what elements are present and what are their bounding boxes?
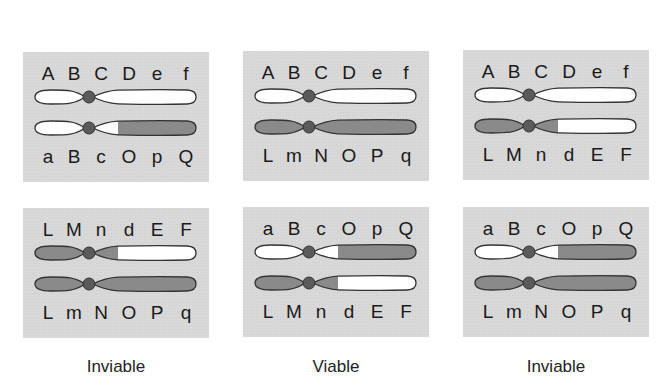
- gene-label: E: [371, 301, 384, 323]
- gene-label: M: [506, 144, 522, 166]
- chromosome-right-arm-distal: [118, 246, 196, 261]
- gene-label: D: [562, 61, 576, 83]
- centromere-icon: [83, 91, 95, 103]
- top-gene-labels: aBcOpQ: [463, 218, 649, 240]
- gene-label: M: [286, 301, 302, 323]
- gene-label: O: [342, 218, 357, 240]
- gene-label: a: [483, 218, 494, 240]
- gene-label: P: [591, 301, 604, 323]
- genotype-panel-1: ABCDefaBcOpQ: [23, 52, 209, 182]
- gene-label: F: [180, 219, 192, 241]
- chromosome-left-arm: [475, 119, 525, 133]
- gene-label: B: [68, 146, 81, 168]
- gene-label: p: [592, 218, 603, 240]
- chromosome-left-arm: [35, 121, 85, 135]
- bottom-gene-labels: LmNOPq: [243, 145, 429, 167]
- centromere-icon: [83, 278, 95, 290]
- top-gene-labels: ABCDef: [23, 63, 209, 85]
- gene-label: L: [263, 301, 274, 323]
- gene-label: N: [314, 145, 328, 167]
- gene-label: O: [122, 146, 137, 168]
- bottom-gene-labels: LMndEF: [463, 144, 649, 166]
- gene-label: m: [66, 302, 82, 324]
- gene-label: Q: [399, 218, 414, 240]
- gene-label: e: [592, 61, 603, 83]
- gene-label: B: [68, 63, 81, 85]
- chromosome-2: [243, 117, 429, 137]
- gene-label: O: [122, 302, 137, 324]
- gene-label: d: [344, 301, 355, 323]
- gene-label: p: [372, 218, 383, 240]
- gene-label: B: [288, 62, 301, 84]
- gene-label: E: [591, 144, 604, 166]
- gene-label: O: [562, 218, 577, 240]
- chromosome-left-arm: [35, 246, 85, 260]
- genotype-panel-5: aBcOpQLMndEF: [243, 207, 429, 337]
- gene-label: P: [371, 145, 384, 167]
- chromosome-1: [463, 85, 649, 105]
- centromere-icon: [523, 89, 535, 101]
- chromosome-right-arm-distal: [338, 89, 416, 104]
- gene-label: c: [96, 146, 106, 168]
- gene-label: d: [564, 144, 575, 166]
- chromosome-right-arm-distal: [118, 121, 196, 136]
- gene-label: N: [534, 301, 548, 323]
- chromosome-2: [243, 273, 429, 293]
- chromosome-left-arm: [475, 88, 525, 102]
- chromosome-right-arm-distal: [118, 90, 196, 105]
- genotype-panel-2: ABCDefLmNOPq: [243, 51, 429, 181]
- bottom-gene-labels: LmNOPq: [463, 301, 649, 323]
- top-gene-labels: ABCDef: [243, 62, 429, 84]
- caption-col-1: Inviable: [23, 357, 209, 377]
- gene-label: A: [262, 62, 275, 84]
- gene-label: q: [181, 302, 192, 324]
- gene-label: f: [623, 61, 628, 83]
- gene-label: L: [483, 144, 494, 166]
- gene-label: C: [534, 61, 548, 83]
- gene-label: D: [122, 63, 136, 85]
- bottom-gene-labels: LmNOPq: [23, 302, 209, 324]
- centromere-icon: [303, 90, 315, 102]
- chromosome-1: [243, 86, 429, 106]
- centromere-icon: [523, 277, 535, 289]
- chromosome-right-arm-distal: [558, 245, 636, 260]
- chromosome-left-arm: [255, 245, 305, 259]
- gene-label: L: [43, 219, 54, 241]
- gene-label: L: [263, 145, 274, 167]
- chromosome-right-arm-distal: [338, 276, 416, 291]
- gene-label: m: [286, 145, 302, 167]
- gene-label: n: [96, 219, 107, 241]
- gene-label: q: [621, 301, 632, 323]
- gene-label: O: [562, 301, 577, 323]
- gene-label: C: [94, 63, 108, 85]
- chromosome-left-arm: [255, 120, 305, 134]
- chromosome-right-arm-distal: [118, 277, 196, 292]
- bottom-gene-labels: aBcOpQ: [23, 146, 209, 168]
- chromosome-left-arm: [475, 276, 525, 290]
- chromosome-1: [23, 87, 209, 107]
- chromosome-right-arm-distal: [558, 88, 636, 103]
- chromosome-left-arm: [255, 89, 305, 103]
- genotype-panel-3: ABCDefLMndEF: [463, 50, 649, 180]
- gene-label: P: [151, 302, 164, 324]
- gene-label: c: [316, 218, 326, 240]
- gene-label: B: [508, 218, 521, 240]
- gene-label: d: [124, 219, 135, 241]
- chromosome-2: [463, 273, 649, 293]
- gene-label: F: [620, 144, 632, 166]
- centromere-icon: [303, 246, 315, 258]
- top-gene-labels: aBcOpQ: [243, 218, 429, 240]
- chromosome-1: [23, 243, 209, 263]
- gene-label: e: [372, 62, 383, 84]
- gene-label: A: [42, 63, 55, 85]
- centromere-icon: [83, 247, 95, 259]
- top-gene-labels: ABCDef: [463, 61, 649, 83]
- chromosome-left-arm: [35, 90, 85, 104]
- genotype-panel-6: aBcOpQLmNOPq: [463, 207, 649, 337]
- gene-label: Q: [619, 218, 634, 240]
- chromosome-left-arm: [35, 277, 85, 291]
- gene-label: M: [66, 219, 82, 241]
- gene-label: f: [183, 63, 188, 85]
- chromosome-right-arm-distal: [338, 245, 416, 260]
- gene-label: Q: [179, 146, 194, 168]
